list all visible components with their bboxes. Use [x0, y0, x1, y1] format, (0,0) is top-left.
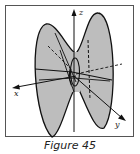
- right-surface-lobe: [77, 13, 113, 128]
- x-axis-label: x: [14, 89, 19, 98]
- figure-caption: Figure 45: [0, 139, 140, 152]
- hyperboloid-diagram: [0, 0, 140, 154]
- y-axis-label: y: [115, 120, 120, 129]
- z-axis-label: z: [79, 8, 83, 17]
- z-axis-arrow-icon: [72, 9, 77, 16]
